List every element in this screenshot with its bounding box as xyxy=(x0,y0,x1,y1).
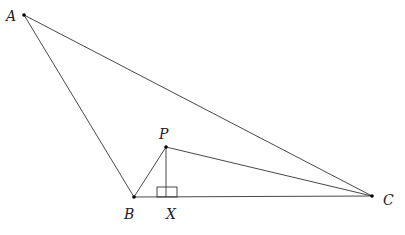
label-P: P xyxy=(158,126,169,142)
point-A xyxy=(22,13,26,17)
point-B xyxy=(132,195,136,199)
segment-AB xyxy=(24,15,134,197)
point-C xyxy=(370,194,374,198)
point-P xyxy=(164,145,168,149)
label-C: C xyxy=(383,192,394,208)
geometry-diagram: A B C P X xyxy=(0,0,405,235)
label-A: A xyxy=(4,8,16,24)
segment-PC xyxy=(166,147,372,196)
segment-BP xyxy=(134,147,166,197)
right-angle-marker xyxy=(157,187,177,197)
segment-AC xyxy=(24,15,372,196)
label-X: X xyxy=(165,206,177,222)
label-B: B xyxy=(123,206,134,222)
